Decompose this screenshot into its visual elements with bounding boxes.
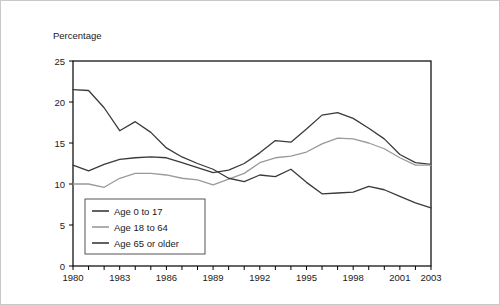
x-tick-label: 1998	[343, 272, 364, 283]
x-tick-label: 2001	[389, 272, 410, 283]
y-tick-label: 15	[54, 138, 65, 149]
y-tick-label: 0	[60, 261, 65, 272]
legend-label-age-18-to-64: Age 18 to 64	[114, 222, 168, 233]
line-chart: Percentage 0510152025 198019831986198919…	[1, 1, 500, 305]
x-tick-label: 1983	[109, 272, 130, 283]
y-tick-label: 25	[54, 56, 65, 67]
x-tick-label: 2003	[420, 272, 441, 283]
data-series-group	[73, 90, 431, 208]
series-line-age-0-to-17	[73, 113, 431, 173]
series-line-age-65-or-older	[73, 90, 431, 208]
y-tick-label: 10	[54, 179, 65, 190]
y-axis-label: Percentage	[53, 30, 102, 41]
x-tick-label: 1986	[156, 272, 177, 283]
x-tick-label: 1980	[62, 272, 83, 283]
chart-legend: Age 0 to 17 Age 18 to 64 Age 65 or older	[85, 199, 205, 254]
series-line-age-18-to-64	[73, 138, 431, 187]
x-tick-label: 1989	[203, 272, 224, 283]
x-axis-ticks: 198019831986198919921995199820012003	[62, 266, 441, 283]
legend-label-age-65-or-older: Age 65 or older	[114, 238, 179, 249]
figure-frame: Percentage 0510152025 198019831986198919…	[0, 0, 500, 305]
y-axis-ticks: 0510152025	[54, 56, 73, 272]
y-tick-label: 20	[54, 97, 65, 108]
legend-label-age-0-to-17: Age 0 to 17	[114, 206, 163, 217]
y-tick-label: 5	[60, 220, 65, 231]
x-tick-label: 1995	[296, 272, 317, 283]
x-tick-label: 1992	[249, 272, 270, 283]
